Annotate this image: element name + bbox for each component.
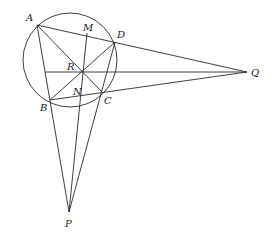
line-m-p	[69, 33, 87, 212]
geometry-diagram: A M D R N B C Q P	[0, 0, 274, 240]
line-d-p	[69, 42, 115, 212]
label-m: M	[82, 22, 94, 33]
label-p: P	[64, 218, 72, 229]
label-a: A	[25, 12, 33, 23]
label-b: B	[39, 102, 47, 113]
label-c: C	[104, 95, 112, 106]
label-q: Q	[251, 67, 259, 78]
label-n: N	[72, 86, 83, 97]
label-d: D	[116, 29, 125, 40]
label-r: R	[66, 61, 75, 72]
